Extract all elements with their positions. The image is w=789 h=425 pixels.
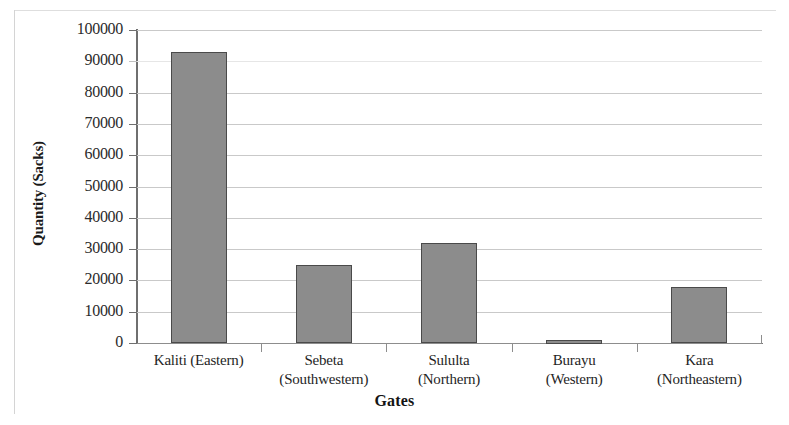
bar — [421, 243, 477, 343]
plot-area — [136, 30, 762, 343]
bar — [546, 340, 602, 344]
y-axis-tick — [129, 155, 137, 156]
gridline — [136, 187, 762, 188]
y-axis-tick — [129, 93, 137, 94]
x-axis-label: Kara(Northeastern) — [637, 351, 762, 389]
y-axis-tick — [129, 249, 137, 250]
y-axis-label: 90000 — [3, 51, 123, 69]
y-axis-label: 80000 — [3, 83, 123, 101]
chart-frame-top — [14, 10, 776, 11]
y-axis-label: 60000 — [3, 145, 123, 163]
gridline — [136, 93, 762, 94]
bar — [296, 265, 352, 343]
x-axis-title: Gates — [0, 392, 789, 410]
y-axis-tick — [129, 218, 137, 219]
y-axis-label: 40000 — [3, 208, 123, 226]
gridline — [136, 30, 762, 31]
x-axis-label: Sululta(Northern) — [386, 351, 511, 389]
gridline — [136, 61, 762, 62]
y-axis-tick — [129, 187, 137, 188]
y-axis-tick — [129, 280, 137, 281]
x-axis-label: Burayu(Western) — [512, 351, 637, 389]
y-axis-label: 30000 — [3, 239, 123, 257]
bar — [671, 287, 727, 343]
y-axis-tick — [129, 312, 137, 313]
gridline — [136, 124, 762, 125]
y-axis-label: 50000 — [3, 177, 123, 195]
y-axis-label: 20000 — [3, 270, 123, 288]
x-axis-label: Sebeta(Southwestern) — [261, 351, 386, 389]
y-axis-tick — [129, 30, 137, 31]
gridline — [136, 218, 762, 219]
bar — [171, 52, 227, 343]
y-axis-label: 70000 — [3, 114, 123, 132]
y-axis-tick — [129, 343, 137, 344]
y-axis-tick — [129, 61, 137, 62]
y-axis-label: 10000 — [3, 302, 123, 320]
gridline — [136, 155, 762, 156]
x-axis-label: Kaliti (Eastern) — [136, 351, 261, 370]
y-axis-label: 100000 — [3, 20, 123, 38]
gridline — [136, 343, 762, 344]
bar-chart: Quantity (Sacks) Gates 10000090000800007… — [0, 0, 789, 425]
y-axis-label: 0 — [3, 333, 123, 351]
y-axis-tick — [129, 124, 137, 125]
